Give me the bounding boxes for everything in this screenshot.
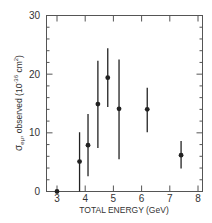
data-point <box>179 141 184 169</box>
point-marker <box>117 106 122 111</box>
y-axis-tick-labels: 0102030 <box>29 10 41 197</box>
data-point <box>95 61 100 148</box>
data-point <box>77 132 82 191</box>
y-tick-label: 20 <box>29 69 41 80</box>
data-point <box>145 88 150 133</box>
x-tick-label: 4 <box>82 193 88 204</box>
chart: 0102030 345678 TOTAL ENERGY (GeV) σeμ, o… <box>0 0 212 223</box>
x-tick-label: 3 <box>54 193 60 204</box>
x-axis-title: TOTAL ENERGY (GeV) <box>79 205 169 215</box>
x-axis-ticks <box>57 16 198 192</box>
point-marker <box>86 143 91 148</box>
data-points <box>55 48 184 194</box>
x-tick-label: 7 <box>167 193 173 204</box>
data-point <box>86 114 91 176</box>
data-point <box>105 48 110 107</box>
x-tick-label: 6 <box>139 193 145 204</box>
data-point <box>55 189 60 194</box>
point-marker <box>179 153 184 158</box>
data-point <box>117 60 122 160</box>
point-marker <box>55 189 60 194</box>
y-axis-ticks <box>47 16 203 192</box>
x-axis-tick-labels: 345678 <box>54 193 201 204</box>
y-tick-label: 0 <box>34 186 40 197</box>
x-tick-label: 5 <box>111 193 117 204</box>
point-marker <box>145 107 150 112</box>
point-marker <box>105 75 110 80</box>
point-marker <box>77 159 82 164</box>
point-marker <box>95 102 100 107</box>
plot-frame <box>47 16 203 192</box>
y-tick-label: 10 <box>29 127 41 138</box>
y-axis-title: σeμ, observed (10-36 cm2) <box>13 55 25 151</box>
y-tick-label: 30 <box>29 10 41 21</box>
x-tick-label: 8 <box>195 193 201 204</box>
